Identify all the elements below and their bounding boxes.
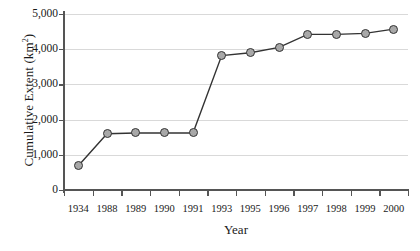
data-point <box>189 128 198 137</box>
x-axis-tick-label: 2000 <box>383 203 404 214</box>
x-axis-tick-mark <box>179 190 180 196</box>
y-axis-tick-label: 2,000 <box>12 114 58 126</box>
x-axis-title: Year <box>64 222 408 238</box>
data-point <box>217 51 226 60</box>
x-axis-tick-mark <box>351 190 352 196</box>
y-axis-tick-label: 1,000 <box>12 149 58 161</box>
plot-area: 01,0002,0003,0004,0005,000 1934198819891… <box>64 14 408 190</box>
x-axis-tick-mark <box>150 190 151 196</box>
x-axis-tick-label: 1999 <box>355 203 376 214</box>
x-axis-tick-mark <box>265 190 266 196</box>
x-axis-tick-label: 1997 <box>297 203 318 214</box>
data-point-markers <box>64 14 408 190</box>
x-axis-tick-mark <box>379 190 380 196</box>
data-point <box>389 25 398 34</box>
x-axis-tick-mark <box>207 190 208 196</box>
data-point <box>275 43 284 52</box>
x-axis-tick-label: 1990 <box>154 203 175 214</box>
x-axis-tick-label: 1993 <box>211 203 232 214</box>
x-axis-tick-label: 1934 <box>68 203 89 214</box>
data-point <box>332 30 341 39</box>
data-point <box>131 128 140 137</box>
y-axis-tick-label: 3,000 <box>12 79 58 91</box>
data-point <box>361 29 370 38</box>
x-axis-tick-mark <box>322 190 323 196</box>
x-axis-tick-label: 1988 <box>97 203 118 214</box>
data-point <box>74 161 83 170</box>
x-axis-tick-mark <box>293 190 294 196</box>
data-point <box>246 48 255 57</box>
x-axis-tick-label: 1996 <box>269 203 290 214</box>
y-axis-tick-label: 4,000 <box>12 43 58 55</box>
y-axis-tick-label: 5,000 <box>12 8 58 20</box>
x-axis-tick-mark <box>408 190 409 196</box>
x-axis-tick-mark <box>121 190 122 196</box>
data-point <box>103 129 112 138</box>
y-axis-tick-label: 0 <box>12 184 58 196</box>
x-axis-tick-mark <box>64 190 65 196</box>
data-point <box>160 128 169 137</box>
data-point <box>303 30 312 39</box>
x-axis-tick-label: 1991 <box>183 203 204 214</box>
y-axis-tick-labels: 01,0002,0003,0004,0005,000 <box>12 14 58 190</box>
x-axis-tick-label: 1995 <box>240 203 261 214</box>
x-axis-tick-mark <box>236 190 237 196</box>
chart-figure: Cumulative Extent (km2) 01,0002,0003,000… <box>0 0 420 251</box>
x-axis-tick-label: 1989 <box>125 203 146 214</box>
x-axis-tick-label: 1998 <box>326 203 347 214</box>
x-axis-tick-mark <box>93 190 94 196</box>
